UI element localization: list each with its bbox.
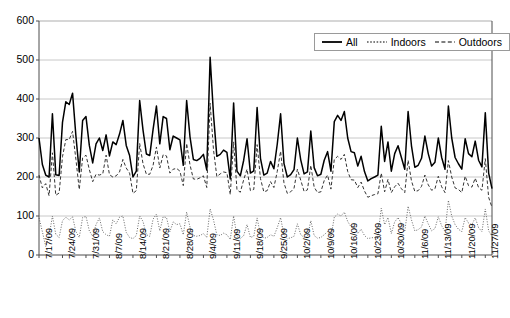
x-axis-tick-label: 8/28/09 — [184, 228, 195, 259]
legend-swatch-dashed-icon — [435, 38, 455, 46]
y-axis-tick-label: 300 — [0, 132, 34, 142]
series-line-outdoors — [39, 103, 492, 207]
legend-entry-indoors: Indoors — [367, 36, 426, 48]
y-axis-tick-label: 400 — [0, 93, 34, 103]
x-axis-tick-label: 11/6/09 — [419, 229, 430, 259]
x-axis-tick-label: 9/18/09 — [254, 228, 265, 259]
legend-swatch-dotted-icon — [367, 38, 387, 46]
y-axis-tick-label: 0 — [0, 249, 34, 259]
chart-legend: AllIndoorsOutdoors — [314, 33, 510, 51]
x-axis-tick-label: 8/21/09 — [160, 228, 171, 259]
x-axis-tick-label: 8/14/09 — [137, 228, 148, 259]
x-axis-tick-label: 10/9/09 — [325, 228, 336, 259]
x-axis-tick-label: 9/4/09 — [207, 233, 218, 259]
legend-label: Outdoors — [459, 36, 502, 48]
x-axis-tick-label: 10/2/09 — [301, 228, 312, 259]
x-axis-tick-label: 9/25/09 — [278, 228, 289, 259]
x-axis-tick-label: 8/7/09 — [113, 233, 124, 259]
x-axis-tick-label: 10/30/09 — [395, 223, 406, 259]
x-axis-tick-label: 9/11/09 — [231, 229, 242, 259]
y-axis-tick-label: 600 — [0, 15, 34, 25]
legend-label: All — [346, 36, 358, 48]
x-axis-tick-label: 11/20/09 — [466, 224, 477, 259]
x-axis-tick-label: 7/17/09 — [43, 228, 54, 259]
x-axis-tick-label: 11/27/09 — [489, 224, 500, 259]
x-axis-tick-label: 11/13/09 — [442, 224, 453, 259]
y-axis-tick-label: 100 — [0, 210, 34, 220]
y-axis-tick-label: 200 — [0, 171, 34, 181]
x-axis-tick-label: 7/24/09 — [66, 228, 77, 259]
legend-entry-outdoors: Outdoors — [435, 36, 502, 48]
legend-swatch-solid-icon — [322, 38, 342, 46]
x-axis-tick-label: 10/23/09 — [372, 223, 383, 259]
legend-label: Indoors — [391, 36, 426, 48]
series-line-all — [39, 57, 492, 188]
x-axis-tick-label: 7/31/09 — [90, 228, 101, 259]
y-axis-tick-label: 500 — [0, 54, 34, 64]
legend-entry-all: All — [322, 36, 358, 48]
x-axis-tick-label: 10/16/09 — [348, 223, 359, 259]
